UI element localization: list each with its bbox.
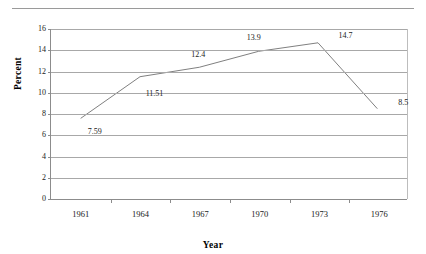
line-chart-figure: Percent 16141210864201961196419671970197… — [0, 18, 426, 254]
x-tick-label: 1976 — [371, 210, 388, 219]
x-tick-mark — [230, 199, 231, 203]
y-tick-mark — [48, 199, 51, 200]
y-tick-label: 14 — [38, 46, 46, 54]
y-tick-label: 6 — [42, 131, 46, 139]
gridline — [51, 114, 407, 115]
chart-page: Percent 16141210864201961196419671970197… — [0, 0, 426, 254]
y-tick-mark — [48, 135, 51, 136]
data-point-label: 13.9 — [247, 34, 261, 42]
y-tick-mark — [48, 29, 51, 30]
data-point-label: 12.4 — [191, 51, 205, 59]
y-tick-label: 4 — [42, 153, 46, 161]
gridline — [51, 178, 407, 179]
gridline — [51, 29, 407, 30]
y-tick-label: 16 — [38, 25, 46, 33]
gridline — [51, 50, 407, 51]
y-axis-title: Percent — [13, 57, 23, 90]
x-tick-mark — [290, 199, 291, 203]
x-tick-label: 1967 — [192, 210, 209, 219]
x-tick-mark — [349, 199, 350, 203]
y-tick-label: 10 — [38, 89, 46, 97]
x-tick-mark — [170, 199, 171, 203]
data-point-label: 11.51 — [146, 90, 164, 98]
data-point-label: 14.7 — [339, 32, 353, 40]
gridline — [51, 72, 407, 73]
y-tick-mark — [48, 178, 51, 179]
y-tick-label: 12 — [38, 68, 46, 76]
x-tick-label: 1961 — [72, 210, 89, 219]
y-tick-mark — [48, 114, 51, 115]
y-tick-mark — [48, 93, 51, 94]
y-tick-mark — [48, 157, 51, 158]
header-divider — [12, 8, 414, 9]
y-tick-mark — [48, 72, 51, 73]
x-tick-label: 1973 — [311, 210, 328, 219]
gridline — [51, 157, 407, 158]
gridline — [51, 135, 407, 136]
y-tick-mark — [48, 50, 51, 51]
y-tick-label: 0 — [42, 195, 46, 203]
y-tick-label: 2 — [42, 174, 46, 182]
gridline — [51, 93, 407, 94]
data-point-label: 7.59 — [88, 128, 102, 136]
plot-area: 16141210864201961196419671970197319767.5… — [50, 29, 408, 199]
x-tick-mark — [111, 199, 112, 203]
y-tick-label: 8 — [42, 110, 46, 118]
x-axis-title: Year — [0, 240, 426, 250]
x-axis-line — [51, 199, 407, 200]
x-tick-label: 1970 — [251, 210, 268, 219]
x-tick-label: 1964 — [132, 210, 149, 219]
data-point-label: 8.5 — [398, 99, 408, 107]
